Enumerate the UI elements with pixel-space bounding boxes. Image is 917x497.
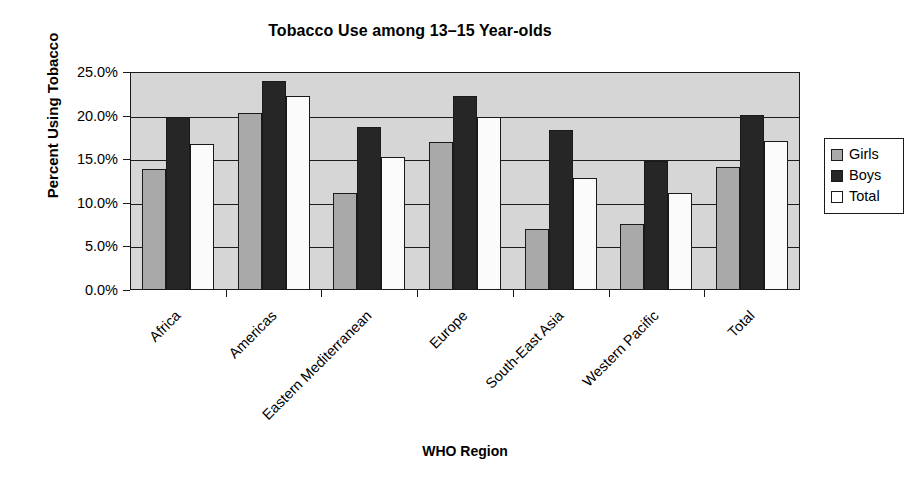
bar-boys	[357, 127, 381, 290]
legend-item-boys: Boys	[831, 165, 897, 186]
bar-total	[286, 96, 310, 290]
bar-girls	[142, 169, 166, 290]
y-axis-tick	[123, 203, 130, 204]
y-axis-tick	[123, 72, 130, 73]
legend-item-label: Girls	[849, 147, 879, 162]
bar-total	[381, 157, 405, 290]
bar-total	[668, 193, 692, 290]
legend-swatch-total-icon	[831, 191, 843, 203]
bar-total	[190, 144, 214, 290]
legend-item-label: Boys	[849, 168, 881, 183]
bar-girls	[525, 229, 549, 290]
bar-girls	[333, 193, 357, 290]
bar-boys	[644, 161, 668, 290]
y-axis-tick	[123, 159, 130, 160]
y-axis-tick	[123, 246, 130, 247]
bar-boys	[549, 130, 573, 290]
bar-total	[477, 117, 501, 290]
legend-swatch-boys-icon	[831, 170, 843, 182]
y-axis-tick	[123, 290, 130, 291]
legend-item-label: Total	[849, 189, 880, 204]
x-axis-category-label: Africa	[0, 307, 184, 497]
bar-girls	[620, 224, 644, 290]
bar-girls	[238, 113, 262, 290]
legend-item-total: Total	[831, 186, 897, 207]
legend-swatch-girls-icon	[831, 149, 843, 161]
bar-girls	[429, 142, 453, 290]
bar-total	[573, 178, 597, 290]
bar-boys	[740, 115, 764, 290]
bar-total	[764, 141, 788, 290]
y-axis-tick	[123, 116, 130, 117]
bar-boys	[453, 96, 477, 290]
chart-legend: GirlsBoysTotal	[824, 138, 904, 214]
x-axis-title: WHO Region	[130, 443, 800, 459]
legend-item-girls: Girls	[831, 144, 897, 165]
bar-boys	[262, 81, 286, 290]
bar-boys	[166, 117, 190, 290]
bar-girls	[716, 167, 740, 290]
